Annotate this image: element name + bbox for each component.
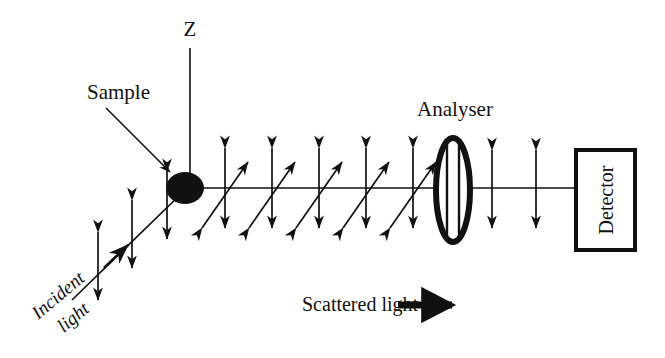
analyser-body <box>436 138 470 242</box>
incident-beam-group: Incident light <box>26 171 184 336</box>
analyser-group: Analyser <box>417 97 493 242</box>
incident-beam-direction-arrowhead <box>104 245 128 268</box>
detector-group: Detector <box>576 150 635 250</box>
figure-canvas: Z Sample Incident light <box>0 0 665 358</box>
sample-label: Sample <box>87 80 150 104</box>
optical-scattering-diagram: Z Sample Incident light <box>0 0 665 358</box>
post-analyser-polarization-group <box>492 150 536 228</box>
scattered-light-caption-group: Scattered light <box>302 293 452 316</box>
sample-callout-group: Sample <box>87 80 170 172</box>
analyser-label: Analyser <box>417 97 493 121</box>
z-axis-label: Z <box>184 17 197 41</box>
detector-label: Detector <box>595 165 617 234</box>
z-axis-group: Z <box>184 17 197 188</box>
sample-pointer-arrow <box>106 108 170 172</box>
